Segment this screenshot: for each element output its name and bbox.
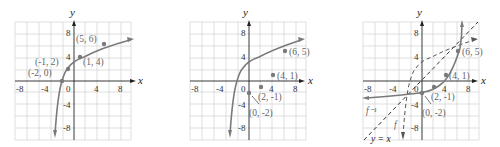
f-inverse-label: f⁻¹ (366, 106, 377, 116)
svg-text:-8: -8 (63, 123, 71, 133)
point-label: (4, 1) (449, 71, 470, 82)
point-label: (-1, 2) (35, 57, 59, 68)
graph-f-panel: y x -8 -4 0 4 8 8 4 -4 -8 (5, 6) (-1, 2)… (0, 0, 170, 147)
svg-text:4: 4 (66, 52, 71, 62)
x-axis-label: x (307, 74, 313, 86)
svg-text:-4: -4 (216, 84, 224, 94)
svg-text:-8: -8 (16, 84, 24, 94)
graph-f-reflected-plot: y x -8 -4 0 4 8 8 4 -4 -8 (6, 5) (4, 1) … (165, 0, 335, 147)
svg-text:4: 4 (414, 52, 419, 62)
svg-text:4: 4 (94, 84, 99, 94)
svg-text:-8: -8 (411, 123, 419, 133)
svg-text:-4: -4 (41, 84, 49, 94)
svg-text:8: 8 (466, 84, 471, 94)
point-label: (5, 6) (76, 34, 97, 45)
point-label: (1, 4) (83, 57, 104, 68)
svg-text:-4: -4 (411, 100, 419, 110)
svg-text:-8: -8 (364, 84, 372, 94)
x-axis-label: x (480, 74, 486, 86)
point-label: (2, -1) (431, 92, 455, 103)
point-label: (-2, 0) (28, 68, 52, 79)
svg-text:0: 0 (66, 84, 71, 94)
point-label: (0, -2) (422, 108, 446, 119)
y-axis-label: y (69, 6, 75, 18)
x-axis-label: x (137, 74, 143, 86)
point-label: (4, 1) (277, 71, 298, 82)
y-axis-label: y (416, 6, 422, 18)
point-label: (6, 5) (289, 47, 310, 58)
svg-text:-4: -4 (238, 100, 246, 110)
svg-text:-4: -4 (63, 100, 71, 110)
tick-labels: -8 -4 0 4 8 8 4 -4 -8 (16, 28, 123, 133)
graph-f-inverse-plot: y x -8 -4 0 4 8 8 4 -4 -8 (6, 5) (4, 1) … (330, 0, 500, 147)
svg-text:8: 8 (241, 28, 246, 38)
svg-text:-8: -8 (238, 123, 246, 133)
f-label: f (394, 120, 398, 130)
svg-text:8: 8 (414, 28, 419, 38)
svg-text:8: 8 (118, 84, 123, 94)
svg-text:-8: -8 (191, 84, 199, 94)
point-label: (0, -2) (249, 108, 273, 119)
graph-f-reflected-points-panel: y x -8 -4 0 4 8 8 4 -4 -8 (6, 5) (4, 1) … (165, 0, 335, 147)
graph-f-and-inverse-panel: y x -8 -4 0 4 8 8 4 -4 -8 (6, 5) (4, 1) … (330, 0, 500, 147)
svg-text:4: 4 (241, 52, 246, 62)
point-label: (2, -1) (258, 92, 282, 103)
point-label: (6, 5) (462, 47, 483, 58)
graph-f-plot: y x -8 -4 0 4 8 8 4 -4 -8 (5, 6) (-1, 2)… (0, 0, 170, 147)
y-axis-label: y (242, 6, 248, 18)
svg-text:-4: -4 (389, 84, 397, 94)
svg-text:8: 8 (66, 28, 71, 38)
identity-label: y = x (370, 134, 391, 144)
svg-text:8: 8 (293, 84, 298, 94)
svg-text:0: 0 (241, 84, 246, 94)
